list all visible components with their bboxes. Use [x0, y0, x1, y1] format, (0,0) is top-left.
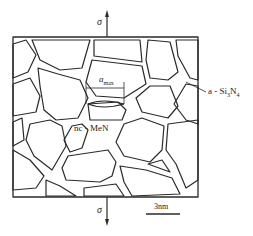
a-max-label: amax	[99, 74, 114, 86]
matrix-label-part: a - Si	[208, 86, 227, 96]
a-max-sub: max	[104, 80, 114, 86]
grain-label: nc - MeN	[74, 123, 109, 133]
matrix-label: a - Si3N4	[208, 86, 240, 98]
microstructure-diagram	[0, 0, 253, 236]
stress-label-bottom: σ	[97, 204, 102, 215]
matrix-sub-4: 4	[237, 92, 240, 98]
stress-label-top: σ	[97, 16, 102, 27]
scale-bar-label: 3nm	[154, 202, 168, 211]
